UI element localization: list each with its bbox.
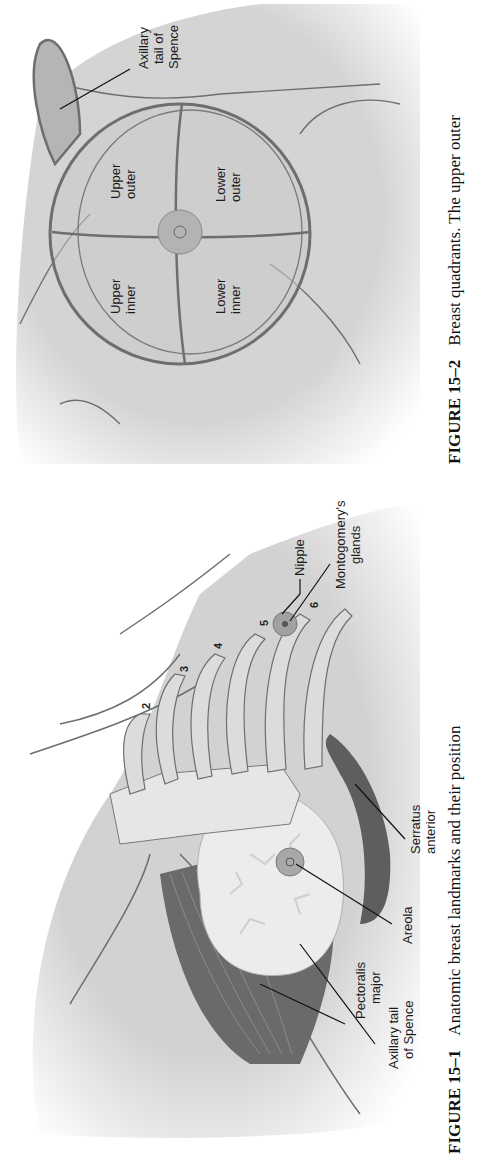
label-nipple: Nipple (292, 539, 307, 576)
rib-number-2: 2 (140, 703, 152, 709)
rib-number-5: 5 (258, 620, 270, 626)
figure-number: FIGURE 15–1 (445, 1050, 464, 1154)
figure-15-1: 2 3 4 5 6 Pectoralis major (0, 494, 440, 1154)
rib-number-4: 4 (212, 642, 224, 649)
rotated-page: 2 3 4 5 6 Pectoralis major (0, 0, 492, 1154)
figure-number: FIGURE 15–2 (445, 360, 464, 464)
rib-number-6: 6 (308, 602, 320, 608)
label-axillary-tail-of-spence: Axillary tail of Spence (386, 1000, 416, 1069)
breast-quadrants-illustration: Upper outer Upper inner Lower outer Lowe… (0, 0, 440, 464)
caption-text: Anatomic breast landmarks and their posi… (445, 725, 464, 1035)
breast-anatomy-illustration: 2 3 4 5 6 Pectoralis major (0, 494, 440, 1154)
label-serratus-anterior: Serratus anterior (408, 801, 438, 854)
rib-number-3: 3 (178, 666, 190, 672)
label-axillary-tail-of-spence: Axillary tail of Spence (136, 23, 181, 69)
label-areola: Areola (400, 906, 415, 944)
caption-figure-15-2: FIGURE 15–2Breast quadrants. The upper o… (445, 115, 465, 464)
caption-figure-15-1: FIGURE 15–1Anatomic breast landmarks and… (445, 725, 465, 1154)
figure-15-2: Upper outer Upper inner Lower outer Lowe… (0, 0, 440, 464)
caption-text: Breast quadrants. The upper outer (445, 115, 464, 346)
